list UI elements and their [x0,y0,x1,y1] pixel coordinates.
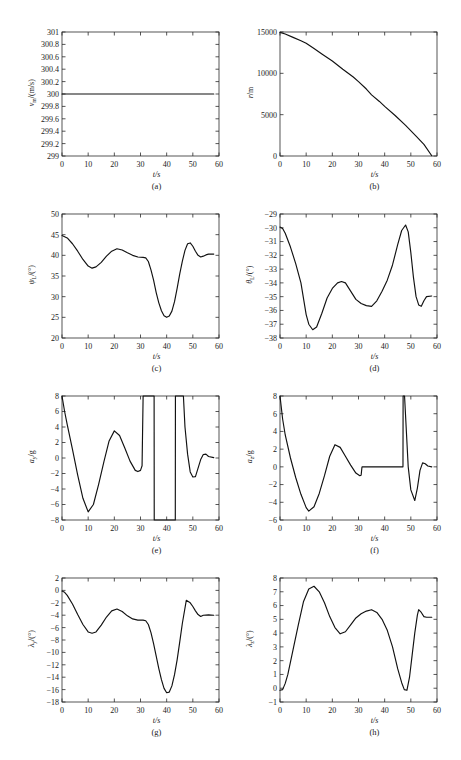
y-tick-label: 6 [273,601,277,610]
data-curve-h [280,586,432,690]
x-tick-label: 10 [302,160,310,169]
subplot-e: 0102030405060−8−6−4−202468ay/gt/s(e) [22,388,227,560]
x-tick-label: 30 [137,342,145,351]
x-tick-label: 20 [110,160,118,169]
y-tick-label: 40 [51,251,59,260]
y-tick-label: 25 [51,313,59,322]
x-tick-label: 0 [278,342,282,351]
x-tick-label: 60 [215,342,223,351]
subplot-caption-f: (f) [240,545,461,555]
x-axis-label-g: t/s [22,716,259,725]
y-tick-label: 8 [273,574,277,583]
x-tick-label: 20 [328,160,336,169]
data-curve-e [62,396,214,520]
x-tick-label: 30 [355,524,363,533]
y-tick-label: 3 [273,643,277,652]
y-tick-label: 0 [273,684,277,693]
y-tick-label: 300 [47,90,59,99]
y-tick-label: −32 [264,251,277,260]
x-tick-label: 0 [60,342,64,351]
x-tick-label: 10 [302,706,310,715]
subplot-a: 0102030405060299299.2299.4299.6299.83003… [22,24,227,196]
y-tick-label: −36 [264,306,277,315]
y-tick-label: −35 [264,293,277,302]
x-tick-label: 50 [189,524,197,533]
y-tick-label: 45 [51,231,59,240]
x-tick-label: 30 [137,160,145,169]
subplot-c: 010203040506020253035404550ψL/(°)t/s(c) [22,206,227,378]
y-tick-label: −10 [46,648,59,657]
axes-frame [62,214,219,338]
y-tick-label: −4 [50,611,59,620]
y-tick-label: −8 [50,516,59,525]
y-tick-label: −18 [46,698,59,707]
y-tick-label: 50 [51,210,59,219]
subplot-f: 0102030405060−6−4−202468az/gt/s(f) [240,388,445,560]
x-tick-label: 60 [433,342,441,351]
y-tick-label: −2 [268,480,277,489]
subplot-caption-c: (c) [22,363,259,373]
x-tick-label: 60 [215,524,223,533]
x-axis-label-a: t/s [22,170,259,179]
y-tick-label: 299 [47,152,59,161]
y-tick-label: 299.8 [41,102,59,111]
y-tick-label: 0 [273,463,277,472]
subplot-g: 0102030405060−18−16−14−12−10−8−6−4−202λy… [22,570,227,742]
y-tick-label: 1 [273,670,277,679]
data-curve-g [62,591,214,693]
y-tick-label: 5000 [261,111,277,120]
y-tick-label: 10000 [257,69,277,78]
y-tick-label: 20 [51,334,59,343]
x-tick-label: 0 [278,706,282,715]
x-tick-label: 60 [215,160,223,169]
x-tick-label: 40 [163,160,171,169]
y-tick-label: 2 [55,574,59,583]
subplot-caption-h: (h) [240,727,461,737]
y-tick-label: 7 [273,588,277,597]
x-tick-label: 0 [278,524,282,533]
y-axis-label-h: λz/(°) [245,577,254,701]
x-tick-label: 50 [407,342,415,351]
x-tick-label: 10 [84,342,92,351]
y-tick-label: −30 [264,224,277,233]
x-tick-label: 40 [163,342,171,351]
y-tick-label: −37 [264,320,277,329]
y-tick-label: 300.2 [41,78,59,87]
x-tick-label: 50 [189,342,197,351]
y-tick-label: −4 [268,498,277,507]
x-tick-label: 20 [328,524,336,533]
x-tick-label: 30 [137,706,145,715]
y-axis-label-b: r/m [246,31,255,155]
y-tick-label: 0 [55,586,59,595]
y-tick-label: 8 [55,392,59,401]
x-tick-label: 0 [60,524,64,533]
x-tick-label: 20 [328,706,336,715]
x-tick-label: 20 [328,342,336,351]
y-tick-label: 299.4 [41,127,59,136]
y-tick-label: 2 [55,438,59,447]
y-tick-label: 0 [55,454,59,463]
x-tick-label: 40 [381,524,389,533]
y-tick-label: 4 [55,423,59,432]
y-tick-label: −34 [264,279,277,288]
y-tick-label: 5 [273,615,277,624]
x-axis-label-h: t/s [240,716,461,725]
axes-frame [62,578,219,702]
x-tick-label: 10 [302,524,310,533]
x-tick-label: 50 [189,160,197,169]
y-tick-label: 15000 [257,28,277,37]
subplot-b: 0102030405060050001000015000r/mt/s(b) [240,24,445,196]
y-tick-label: −14 [46,673,59,682]
y-tick-label: 2 [273,657,277,666]
y-tick-label: 6 [273,410,277,419]
y-tick-label: −8 [50,636,59,645]
data-curve-c [62,235,214,317]
x-tick-label: 40 [381,160,389,169]
x-tick-label: 30 [355,706,363,715]
x-tick-label: 0 [60,706,64,715]
y-tick-label: −12 [46,661,59,670]
x-tick-label: 40 [163,706,171,715]
y-tick-label: 30 [51,293,59,302]
x-tick-label: 30 [137,524,145,533]
subplot-h: 0102030405060−1012345678λz/(°)t/s(h) [240,570,445,742]
